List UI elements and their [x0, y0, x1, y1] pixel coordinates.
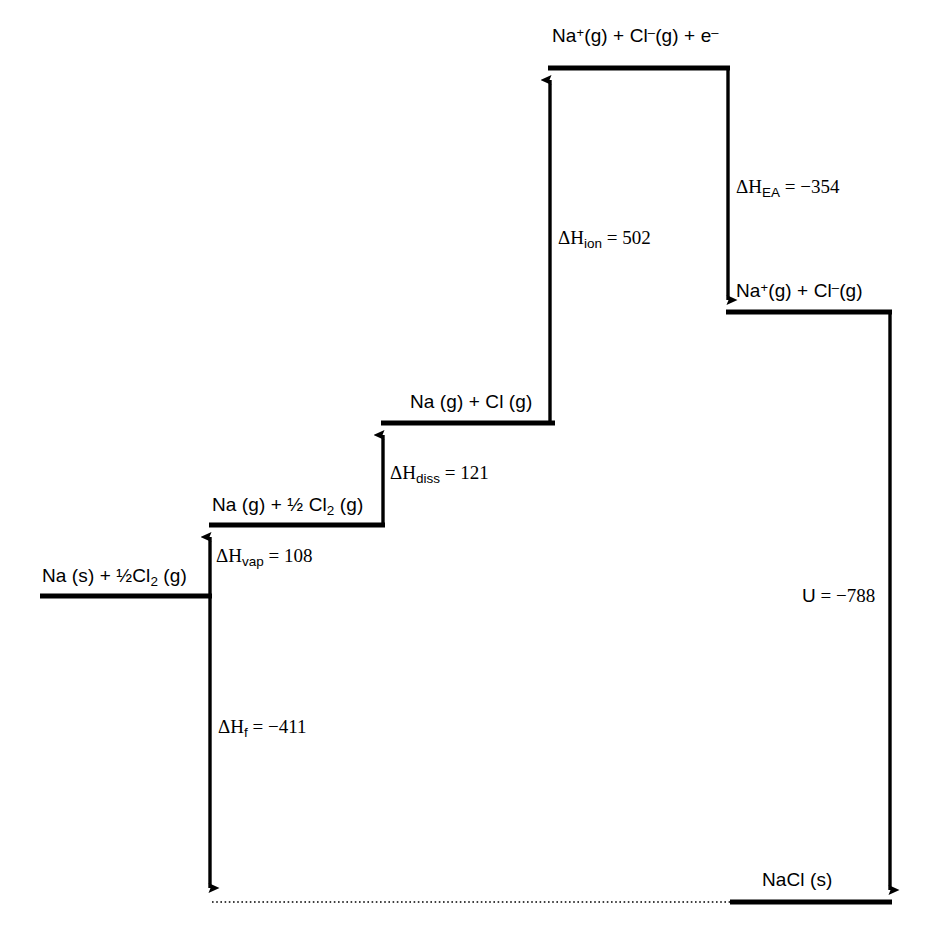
delta-h-symbol: ΔH: [218, 716, 244, 737]
delta-h-subscript: ion: [584, 236, 602, 251]
equals-sign: =: [780, 176, 800, 197]
born-haber-diagram: Na+(g) + Cl–(g) + e– Na+(g) + Cl–(g) Na …: [0, 0, 926, 935]
step-value: 108: [284, 545, 313, 566]
level-label-na-g-cl-g: Na (g) + Cl (g): [410, 392, 532, 413]
delta-h-subscript: vap: [242, 554, 264, 569]
step-label-electron-affinity: ΔHEA = −354: [736, 177, 839, 201]
step-label-formation: ΔHf = −411: [218, 717, 306, 741]
level-label-ions: Na+(g) + Cl–(g): [736, 281, 863, 302]
species-na: Na: [552, 25, 577, 46]
species-prefix: Na (g) + ½ Cl: [212, 494, 327, 515]
delta-h-subscript: diss: [416, 471, 440, 486]
step-value: 502: [622, 227, 651, 248]
species-na: Na: [736, 280, 761, 301]
lattice-energy-symbol: U: [802, 585, 816, 606]
step-label-vaporisation: ΔHvap = 108: [216, 546, 312, 570]
level-label-na-g-cl2-g: Na (g) + ½ Cl2 (g): [212, 495, 363, 519]
species-prefix: Na (s) + ½Cl: [42, 565, 150, 586]
species-cl-part: (g) + Cl: [768, 280, 832, 301]
equals-sign: =: [264, 545, 284, 566]
species-cl-part: (g) + Cl: [584, 25, 648, 46]
delta-h-subscript: EA: [762, 185, 780, 200]
electron-charge-minus: –: [711, 25, 718, 40]
delta-h-symbol: ΔH: [558, 227, 584, 248]
step-value: −411: [268, 716, 307, 737]
step-label-ionisation: ΔHion = 502: [558, 228, 651, 252]
equals-sign: =: [248, 716, 268, 737]
equals-sign: =: [440, 462, 460, 483]
step-label-lattice-energy: U = −788: [802, 586, 875, 607]
level-label-nacl-s: NaCl (s): [762, 870, 832, 891]
step-value: 121: [460, 462, 489, 483]
step-value: −354: [800, 176, 839, 197]
species-electron-part: (g) + e: [655, 25, 711, 46]
species-gas-part: (g): [839, 280, 863, 301]
equals-sign: =: [816, 585, 836, 606]
equals-sign: =: [602, 227, 622, 248]
delta-h-symbol: ΔH: [390, 462, 416, 483]
step-label-dissociation: ΔHdiss = 121: [390, 463, 489, 487]
delta-h-symbol: ΔH: [736, 176, 762, 197]
level-label-ions-electron: Na+(g) + Cl–(g) + e–: [552, 26, 719, 47]
species-suffix: (g): [334, 494, 363, 515]
step-value: −788: [836, 585, 875, 606]
delta-h-symbol: ΔH: [216, 545, 242, 566]
species-subscript: 2: [150, 574, 158, 589]
species-suffix: (g): [158, 565, 187, 586]
level-label-na-s-cl2-g: Na (s) + ½Cl2 (g): [42, 566, 187, 590]
